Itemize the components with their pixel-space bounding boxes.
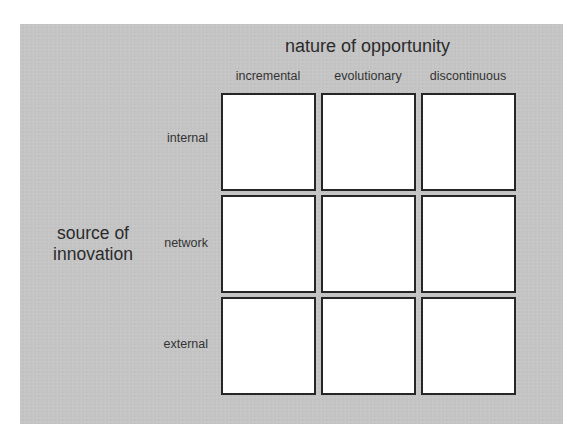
column-label-evolutionary: evolutionary [318,69,418,84]
row-axis-title-line2: innovation [38,244,148,265]
row-axis-title-line1: source of [38,223,148,244]
row-label-network: network [140,236,208,251]
column-axis-title: nature of opportunity [200,36,535,56]
cell-external-evolutionary[interactable] [321,297,416,395]
cell-network-incremental[interactable] [221,195,316,293]
cell-internal-discontinuous[interactable] [421,93,516,191]
cell-network-discontinuous[interactable] [421,195,516,293]
cell-network-evolutionary[interactable] [321,195,416,293]
cell-internal-evolutionary[interactable] [321,93,416,191]
row-label-external: external [140,337,208,352]
column-label-incremental: incremental [218,69,318,84]
cell-external-discontinuous[interactable] [421,297,516,395]
cell-external-incremental[interactable] [221,297,316,395]
row-label-internal: internal [140,131,208,146]
column-label-discontinuous: discontinuous [418,69,518,84]
row-axis-title: source of innovation [38,223,148,265]
cell-internal-incremental[interactable] [221,93,316,191]
